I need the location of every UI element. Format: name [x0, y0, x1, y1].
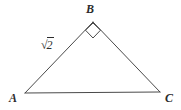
vertex-label-a: A	[9, 92, 17, 104]
radical-expression: √2	[41, 39, 54, 51]
vertex-label-c: C	[165, 92, 173, 104]
side-ac-line	[25, 92, 160, 93]
triangle-drawing	[0, 0, 181, 110]
side-bc-line	[93, 22, 160, 92]
vertex-label-b: B	[86, 3, 94, 15]
side-label-ab: √2	[41, 39, 54, 51]
side-ab-line	[25, 22, 93, 93]
radicand-value: 2	[47, 37, 54, 52]
right-angle-marker-icon	[86, 23, 101, 38]
geometry-figure: A B C √2	[0, 0, 181, 110]
